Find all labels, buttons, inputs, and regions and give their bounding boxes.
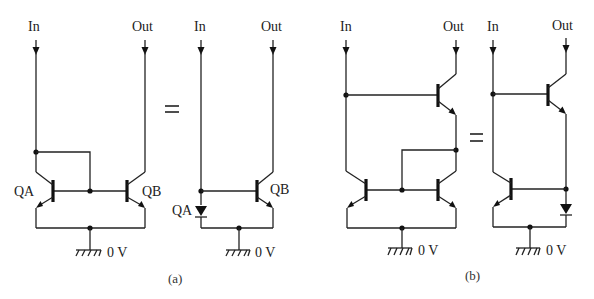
ground-label: 0 V bbox=[107, 245, 127, 260]
npn-transistor-qb-icon bbox=[127, 172, 145, 228]
output-label: Out bbox=[443, 19, 464, 34]
transistor-qb-label: QB bbox=[270, 182, 289, 197]
circuit-a-left: In Out QA bbox=[14, 19, 161, 260]
ground-icon bbox=[516, 248, 540, 255]
diode-qa-label: QA bbox=[172, 203, 193, 218]
diode-icon bbox=[560, 204, 572, 227]
npn-transistor-lower-icon bbox=[493, 172, 511, 227]
output-label: Out bbox=[261, 19, 282, 34]
caption-b: (b) bbox=[465, 268, 480, 283]
circuit-b-left: In Out bbox=[340, 19, 464, 258]
npn-transistor-upper-icon bbox=[438, 74, 456, 171]
ground-icon bbox=[388, 248, 412, 255]
output-label: Out bbox=[552, 18, 573, 33]
input-label: In bbox=[194, 19, 206, 34]
npn-transistor-lower-right-icon bbox=[438, 171, 456, 228]
ground-icon bbox=[76, 250, 101, 256]
npn-transistor-lower-left-icon bbox=[346, 171, 366, 228]
equals-sign bbox=[165, 106, 179, 112]
npn-transistor-qb-icon bbox=[257, 172, 273, 228]
circuit-b-right: In Out bbox=[487, 18, 573, 258]
junction-node bbox=[399, 187, 404, 192]
junction-node bbox=[87, 188, 92, 193]
input-label: In bbox=[487, 19, 499, 34]
circuit-a-right: In Out QA QB bbox=[172, 19, 289, 260]
transistor-qa-label: QA bbox=[14, 184, 35, 199]
transistor-qb-label: QB bbox=[142, 184, 161, 199]
ground-icon bbox=[226, 250, 250, 256]
output-label: Out bbox=[132, 19, 153, 34]
input-label: In bbox=[28, 19, 40, 34]
equals-sign bbox=[470, 134, 483, 141]
npn-transistor-upper-icon bbox=[548, 74, 566, 204]
caption-a: (a) bbox=[168, 271, 182, 286]
ground-label: 0 V bbox=[546, 243, 566, 258]
circuit-diagram: In Out QA bbox=[0, 0, 594, 299]
ground-label: 0 V bbox=[255, 245, 275, 260]
input-label: In bbox=[340, 19, 352, 34]
npn-transistor-qa-icon bbox=[36, 172, 53, 228]
diode-icon bbox=[195, 206, 207, 228]
ground-label: 0 V bbox=[418, 243, 438, 258]
